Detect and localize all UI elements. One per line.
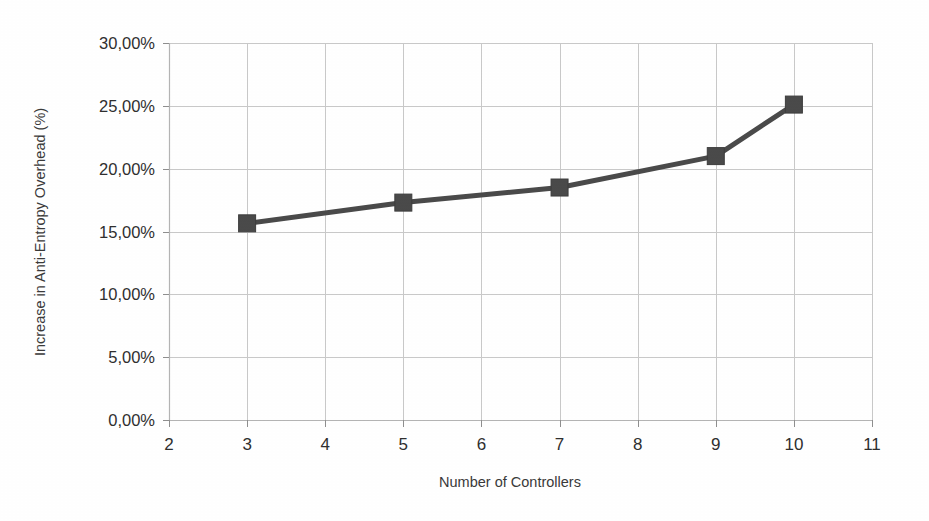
x-tick-label: 3 [242,435,251,454]
data-point-marker [785,96,802,113]
x-tick-label: 11 [863,435,881,454]
data-point-marker [395,194,412,211]
x-tick-label: 2 [164,435,173,454]
y-tick-label: 30,00% [99,34,155,52]
y-tick-label: 15,00% [99,223,155,241]
x-axis-title: Number of Controllers [439,474,581,490]
data-point-marker [551,179,568,196]
data-point-marker [707,148,724,165]
y-tick-label: 5,00% [108,348,155,366]
y-tick-label: 10,00% [99,285,155,303]
y-tick-label: 25,00% [99,97,155,115]
y-tick-label: 0,00% [108,411,155,429]
x-tick-label: 6 [477,435,486,454]
data-point-marker [239,215,256,232]
x-tick-label: 4 [320,435,329,454]
line-chart: 0,00%5,00%10,00%15,00%20,00%25,00%30,00%… [0,0,929,521]
x-tick-label: 7 [555,435,564,454]
x-tick-label: 9 [711,435,720,454]
y-axis-title: Increase in Anti-Entropy Overhead (%) [32,108,48,356]
chart-container: 0,00%5,00%10,00%15,00%20,00%25,00%30,00%… [0,0,929,521]
x-tick-label: 8 [633,435,642,454]
y-tick-label: 20,00% [99,160,155,178]
x-tick-label: 10 [784,435,803,454]
x-tick-label: 5 [399,435,408,454]
